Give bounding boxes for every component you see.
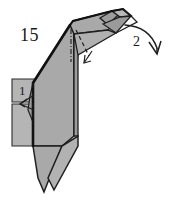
- origami-diagram: 15 1 2: [0, 0, 172, 202]
- body-right-strip: [74, 34, 78, 136]
- main-body-panel: [33, 25, 74, 146]
- mountain-fold-arrow-mid: [84, 51, 92, 63]
- step-number-label: 15: [20, 26, 39, 44]
- right-diagonal-band: [74, 30, 116, 55]
- fold-arrow-large-curved: [125, 25, 161, 54]
- fold-order-label-1: 1: [19, 84, 26, 97]
- fold-order-label-2: 2: [133, 35, 140, 49]
